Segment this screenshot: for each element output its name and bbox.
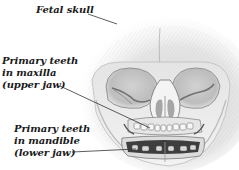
fetal-skull-diagram: Fetal skull Primary teeth in maxilla (up… [0, 0, 239, 170]
label-mandible-line-2: in mandible [14, 135, 90, 147]
label-maxilla-teeth: Primary teeth in maxilla (upper jaw) [2, 55, 78, 91]
label-mandible-line-3: (lower jaw) [14, 147, 90, 159]
label-mandible-line-1: Primary teeth [14, 123, 90, 135]
maxilla-teeth [124, 117, 204, 135]
label-maxilla-line-1: Primary teeth [2, 55, 78, 67]
label-fetal-skull: Fetal skull [36, 4, 94, 16]
label-maxilla-line-2: in maxilla [2, 67, 78, 79]
label-fetal-skull-line-1: Fetal skull [36, 4, 94, 16]
label-maxilla-line-3: (upper jaw) [2, 79, 78, 91]
label-mandible-teeth: Primary teeth in mandible (lower jaw) [14, 123, 90, 159]
